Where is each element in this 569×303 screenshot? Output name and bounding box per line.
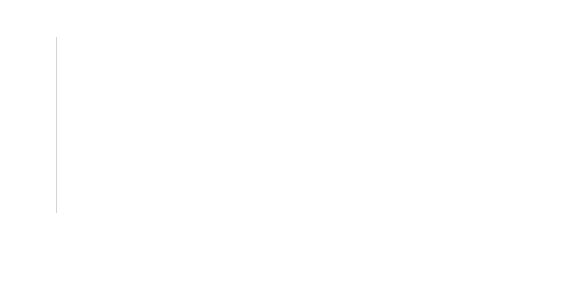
chart-container: [0, 0, 569, 303]
plot-area: [57, 37, 503, 212]
x-axis-category-labels: [0, 212, 569, 303]
